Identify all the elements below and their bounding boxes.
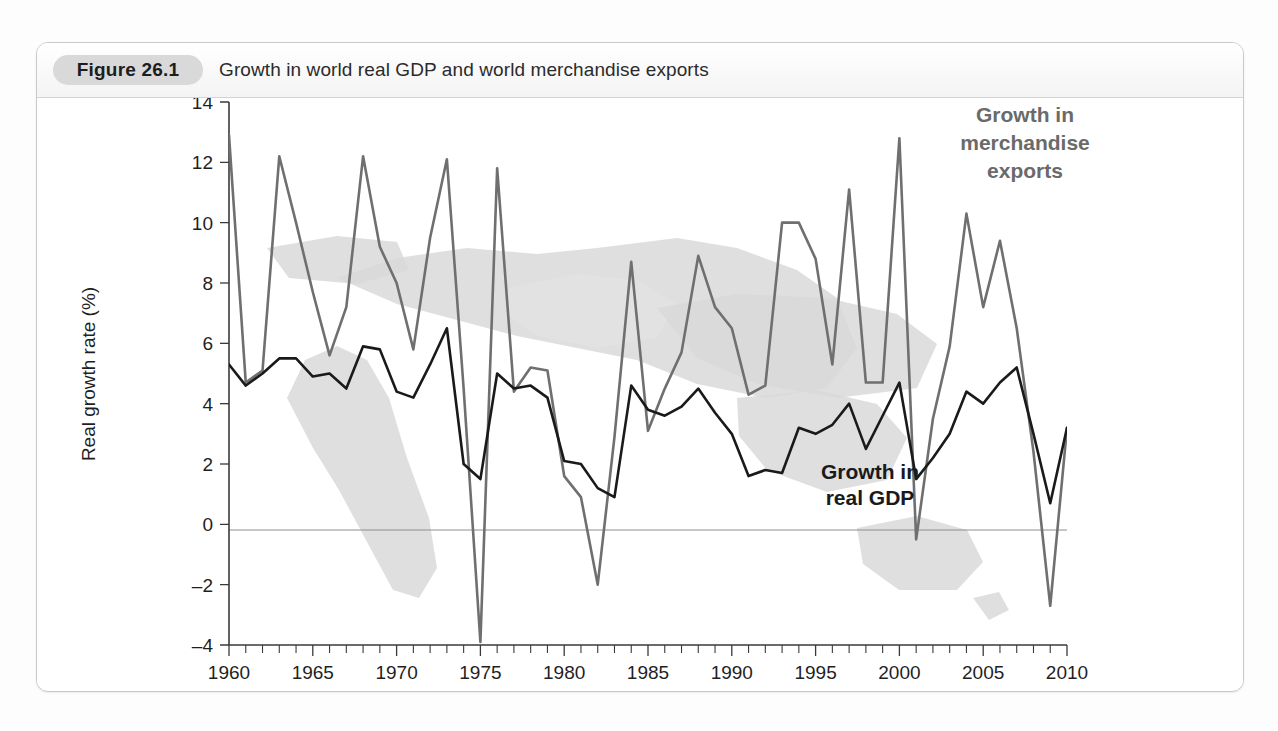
y-axis-title: Real growth rate (%)	[78, 287, 99, 461]
x-tick-label-2010: 2010	[1046, 662, 1088, 683]
x-tick-label-2000: 2000	[878, 662, 920, 683]
figure-caption-bar: Figure 26.1 Growth in world real GDP and…	[37, 43, 1243, 98]
annotation-exports-line3: exports	[987, 159, 1063, 182]
y-tick-label-6: 6	[202, 333, 213, 354]
x-tick-label-1995: 1995	[794, 662, 836, 683]
x-tick-label-1975: 1975	[459, 662, 501, 683]
y-tick-label-10: 10	[192, 213, 213, 234]
figure-number-badge: Figure 26.1	[53, 55, 203, 85]
world-map-watermark	[267, 236, 1009, 620]
y-tick-label-2: 2	[202, 454, 213, 475]
figure-caption-text: Growth in world real GDP and world merch…	[219, 59, 709, 81]
y-tick-label-12: 12	[192, 152, 213, 173]
y-tick-label--4: –4	[192, 635, 214, 656]
annotation-exports-line2: merchandise	[960, 131, 1090, 154]
y-tick-label-4: 4	[202, 394, 213, 415]
x-axis-ticks: 1960196519701975198019851990199520002005…	[208, 645, 1088, 683]
annotation-gdp-line1: Growth in	[821, 460, 919, 483]
y-tick-label-8: 8	[202, 273, 213, 294]
chart-plot-area: –4–202468101214 196019651970197519801985…	[37, 98, 1243, 690]
y-tick-label--2: –2	[192, 575, 213, 596]
x-tick-label-1960: 1960	[208, 662, 250, 683]
x-tick-label-1965: 1965	[292, 662, 334, 683]
x-tick-label-2005: 2005	[962, 662, 1004, 683]
page-root: Figure 26.1 Growth in world real GDP and…	[0, 0, 1278, 731]
y-tick-label-14: 14	[192, 98, 214, 113]
line-chart: –4–202468101214 196019651970197519801985…	[37, 98, 1243, 690]
y-axis-ticks: –4–202468101214	[192, 98, 229, 656]
figure-card: Figure 26.1 Growth in world real GDP and…	[36, 42, 1244, 692]
annotation-exports-line1: Growth in	[976, 103, 1074, 126]
y-tick-label-0: 0	[202, 514, 213, 535]
x-tick-label-1990: 1990	[711, 662, 753, 683]
x-tick-label-1980: 1980	[543, 662, 585, 683]
annotation-gdp-line2: real GDP	[826, 486, 915, 509]
x-tick-label-1985: 1985	[627, 662, 669, 683]
x-tick-label-1970: 1970	[375, 662, 417, 683]
